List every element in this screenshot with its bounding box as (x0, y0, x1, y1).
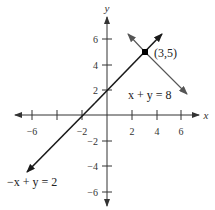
equation-label-neg-x-plus-y-eq-2: −x + y = 2 (7, 175, 57, 189)
y-tick-label: −2 (87, 136, 98, 147)
line-x-plus-y-eq-8 (128, 34, 187, 94)
intersection-point-label: (3,5) (154, 46, 177, 60)
coordinate-graph: −6 −2 2 4 6 x 6 4 2 −2 −4 −6 y (0, 0, 215, 210)
intersection-point-marker (142, 49, 148, 55)
x-tick-label: −6 (27, 126, 38, 137)
x-axis: −6 −2 2 4 6 x (15, 109, 209, 137)
y-axis: 6 4 2 −2 −4 −6 y (87, 2, 112, 206)
y-tick-label: −4 (87, 161, 98, 172)
equation-label-x-plus-y-eq-8: x + y = 8 (128, 88, 172, 102)
x-tick-label: 4 (155, 126, 160, 137)
x-tick-label: −2 (77, 126, 88, 137)
y-tick-label: 6 (93, 34, 98, 45)
y-tick-label: 4 (93, 60, 98, 71)
y-axis-label: y (104, 2, 110, 14)
x-tick-label: 6 (179, 126, 184, 137)
line-neg-x-plus-y-eq-2 (27, 34, 162, 172)
x-axis-label: x (203, 109, 209, 121)
x-tick-label: 2 (130, 126, 135, 137)
y-tick-label: 2 (93, 85, 98, 96)
y-tick-label: −6 (87, 187, 98, 198)
graph-canvas: −6 −2 2 4 6 x 6 4 2 −2 −4 −6 y (0, 0, 215, 210)
